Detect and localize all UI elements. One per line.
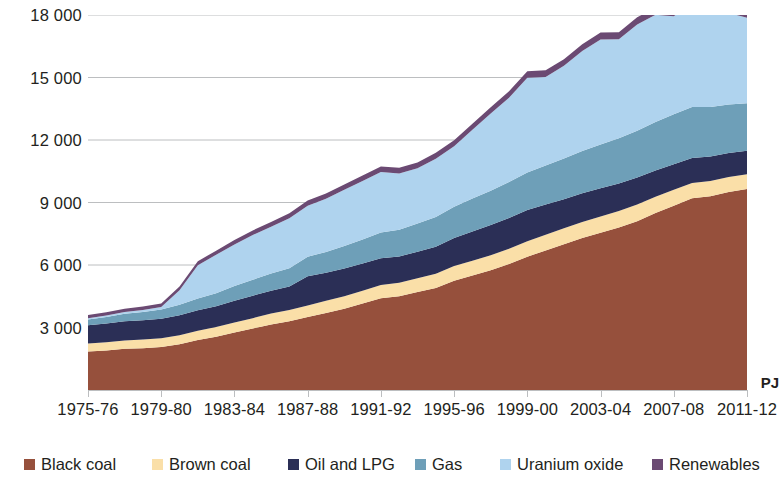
x-tick-mark [381,390,382,397]
x-tick-mark [674,390,675,397]
y-tick-label: 6 000 [0,257,82,274]
legend-label: Oil and LPG [305,456,395,473]
legend-label: Brown coal [169,456,251,473]
legend-swatch-icon [152,459,163,470]
plot-svg [88,15,747,390]
legend-item[interactable]: Uranium oxide [500,452,623,476]
y-tick-label: 15 000 [0,70,82,87]
y-tick-label: 18 000 [0,7,82,24]
x-axis-line [88,390,747,391]
x-tick-mark [308,390,309,397]
legend-swatch-icon [500,459,511,470]
chart-legend: Black coalBrown coalOil and LPGGasUraniu… [0,452,779,478]
legend-item[interactable]: Black coal [24,452,116,476]
x-tick-mark [234,390,235,397]
legend-label: Gas [432,456,462,473]
x-tick-mark [88,390,89,397]
x-tick-mark [454,390,455,397]
y-axis: 3 0006 0009 00012 00015 00018 000 [0,0,82,405]
x-tick-mark [601,390,602,397]
x-tick-mark [527,390,528,397]
legend-item[interactable]: Oil and LPG [288,452,395,476]
x-tick-label: 2011-12 [702,401,779,418]
legend-swatch-icon [24,459,35,470]
plot-area [88,15,747,390]
y-tick-label: 3 000 [0,320,82,337]
y-tick-label: 9 000 [0,195,82,212]
y-tick-label: 12 000 [0,132,82,149]
legend-swatch-icon [415,459,426,470]
legend-item[interactable]: Brown coal [152,452,251,476]
stacked-area-chart: 3 0006 0009 00012 00015 00018 000 PJ 197… [0,0,779,485]
legend-swatch-icon [652,459,663,470]
legend-item[interactable]: Renewables [652,452,760,476]
legend-label: Renewables [669,456,760,473]
x-axis: 1975-761979-801983-841987-881991-921995-… [0,390,779,430]
legend-label: Uranium oxide [517,456,623,473]
x-tick-mark [747,390,748,397]
x-tick-mark [161,390,162,397]
legend-item[interactable]: Gas [415,452,462,476]
legend-swatch-icon [288,459,299,470]
legend-label: Black coal [41,456,116,473]
